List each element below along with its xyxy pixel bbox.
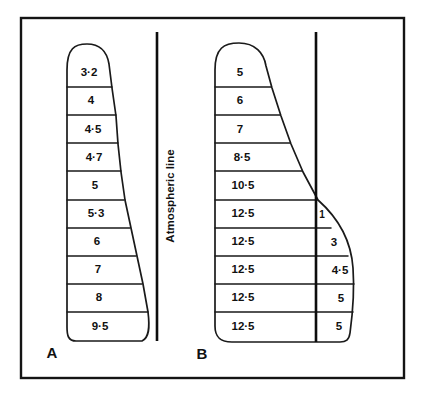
- panel-b: 5 6 7 8·5 10·5 12·5 12·5 12·5 12·5 12·5 …: [197, 32, 354, 362]
- panel-a-letter: A: [47, 344, 58, 361]
- panel-b-inner-band-value: 12·5: [231, 263, 255, 275]
- panel-a-band-value: 5: [92, 179, 99, 191]
- panel-b-outer-band-value: 4·5: [332, 264, 349, 276]
- panel-b-letter: B: [197, 345, 208, 362]
- panel-b-outer-band-value: 5: [336, 320, 343, 332]
- panel-a-band-value: 6: [94, 235, 100, 247]
- panel-a-band-value: 4: [88, 94, 95, 106]
- panel-a: 3·2 4 4·5 4·7 5 5·3 6 7 8 9·5 Atmospheri…: [47, 32, 176, 361]
- panel-b-inner-band-value: 10·5: [231, 179, 255, 191]
- panel-a-band-value: 5·3: [88, 207, 105, 219]
- figure-svg: 3·2 4 4·5 4·7 5 5·3 6 7 8 9·5 Atmospheri…: [0, 0, 425, 397]
- figure-container: 3·2 4 4·5 4·7 5 5·3 6 7 8 9·5 Atmospheri…: [0, 0, 425, 397]
- panel-a-profile-outline: [67, 44, 149, 341]
- panel-a-band-value: 9·5: [92, 320, 109, 332]
- panel-b-inner-band-value: 5: [237, 66, 244, 78]
- panel-a-band-value: 4·5: [85, 123, 102, 135]
- panel-a-band-value: 3·2: [81, 66, 98, 78]
- panel-b-outer-band-value: 3: [331, 236, 337, 248]
- panel-b-inner-band-value: 6: [237, 94, 243, 106]
- panel-a-band-value: 4·7: [86, 151, 103, 163]
- panel-a-band-value: 8: [96, 291, 103, 303]
- panel-b-inner-band-value: 12·5: [231, 235, 255, 247]
- panel-b-inner-band-value: 12·5: [231, 207, 255, 219]
- panel-b-outer-band-value: 1: [319, 209, 325, 220]
- panel-b-inner-band-value: 12·5: [231, 291, 255, 303]
- panel-b-outer-band-value: 5: [338, 292, 345, 304]
- panel-b-inner-band-value: 12·5: [231, 320, 255, 332]
- panel-b-inner-band-value: 7: [237, 123, 243, 135]
- atmospheric-line-a-label: Atmospheric line: [164, 149, 176, 242]
- panel-b-inner-band-value: 8·5: [234, 151, 251, 163]
- panel-a-band-value: 7: [95, 263, 101, 275]
